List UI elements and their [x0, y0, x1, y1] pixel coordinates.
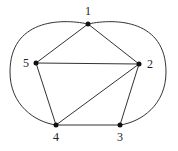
edge-4-2 — [56, 64, 139, 125]
node-3 — [118, 123, 123, 128]
node-label-4: 4 — [53, 130, 59, 144]
node-label-5: 5 — [23, 56, 29, 70]
edge-5-2 — [36, 63, 139, 64]
edge-2-3 — [120, 64, 139, 125]
node-4 — [54, 123, 59, 128]
edge-5-4 — [36, 63, 56, 125]
node-5 — [34, 61, 39, 66]
node-label-3: 3 — [117, 130, 123, 144]
graph-diagram: 1 2 3 4 5 — [0, 0, 178, 151]
edge-1-2 — [88, 24, 139, 64]
node-1 — [86, 22, 91, 27]
node-label-1: 1 — [85, 4, 91, 18]
node-label-2: 2 — [147, 57, 153, 71]
edge-1-5 — [36, 24, 88, 63]
node-2 — [137, 62, 142, 67]
